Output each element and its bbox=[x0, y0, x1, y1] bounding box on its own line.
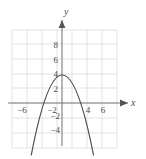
y-tick-label-2: 2 bbox=[48, 85, 58, 94]
y-tick-label-4: 4 bbox=[48, 70, 58, 79]
x-tick-label-6: 6 bbox=[98, 106, 108, 115]
y-tick-label-6: 6 bbox=[48, 56, 58, 65]
y-tick-label-neg2: −2 bbox=[44, 112, 60, 121]
x-axis-label: x bbox=[131, 98, 135, 108]
y-axis-label: y bbox=[64, 7, 68, 17]
grid-lines bbox=[12, 30, 117, 148]
coordinate-plane bbox=[0, 0, 146, 159]
y-tick-label-neg4: −4 bbox=[44, 126, 60, 135]
y-tick-label-8: 8 bbox=[48, 41, 58, 50]
x-tick-label-neg6: −6 bbox=[14, 106, 30, 115]
x-tick-label-4: 4 bbox=[83, 106, 93, 115]
parabola-figure: −6 −2 4 6 −4 −2 2 4 6 8 x y bbox=[0, 0, 146, 159]
